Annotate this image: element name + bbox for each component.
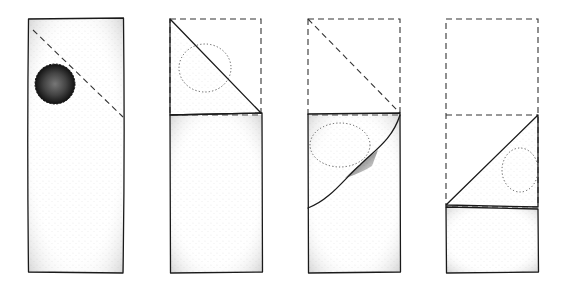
step-2-panel (170, 19, 263, 273)
fold-line-dashed (308, 19, 400, 113)
original-outline-dashed (308, 19, 400, 115)
folding-diagram (0, 0, 564, 290)
step-3-panel (308, 19, 401, 273)
step-1-panel (28, 18, 124, 273)
step-4-panel (446, 19, 539, 273)
